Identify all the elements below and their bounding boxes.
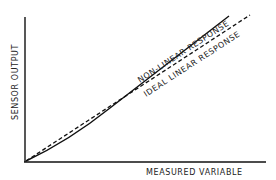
y-axis-label: SENSOR OUTPUT [11,44,20,120]
x-axis-label: MEASURED VARIABLE [146,168,243,177]
sensor-response-diagram: SENSOR OUTPUT MEASURED VARIABLE NON-LINE… [0,0,276,180]
ideal-linear-response-line [26,15,250,161]
